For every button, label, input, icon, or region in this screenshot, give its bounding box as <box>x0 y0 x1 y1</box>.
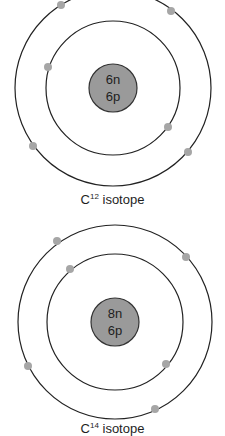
electron <box>151 405 159 413</box>
electron <box>164 123 172 131</box>
electron <box>184 148 192 156</box>
mass-number: 14 <box>90 421 99 430</box>
proton-count: 6p <box>85 322 145 339</box>
atom-drawing-c12 <box>0 0 225 218</box>
neutron-count: 8n <box>85 305 145 322</box>
electron <box>162 360 170 368</box>
proton-count: 6p <box>83 88 143 105</box>
isotope-caption: C12 isotope <box>0 192 225 207</box>
atom-diagram-c14: 8n 6p C14 isotope <box>0 218 225 436</box>
neutron-count: 6n <box>83 71 143 88</box>
element-symbol: C <box>81 421 90 436</box>
electron <box>182 253 190 261</box>
electron <box>167 7 175 15</box>
electron <box>44 63 52 71</box>
electron <box>53 237 61 245</box>
caption-text: isotope <box>99 192 145 207</box>
isotope-caption: C14 isotope <box>0 421 225 436</box>
electron <box>29 142 37 150</box>
mass-number: 12 <box>90 192 99 201</box>
electron <box>57 1 65 9</box>
element-symbol: C <box>81 192 90 207</box>
electron <box>24 362 32 370</box>
nucleus-label: 6n 6p <box>83 71 143 105</box>
electron <box>66 265 74 273</box>
atom-diagram-c12: 6n 6p C12 isotope <box>0 0 225 218</box>
nucleus-label: 8n 6p <box>85 305 145 339</box>
caption-text: isotope <box>99 421 145 436</box>
